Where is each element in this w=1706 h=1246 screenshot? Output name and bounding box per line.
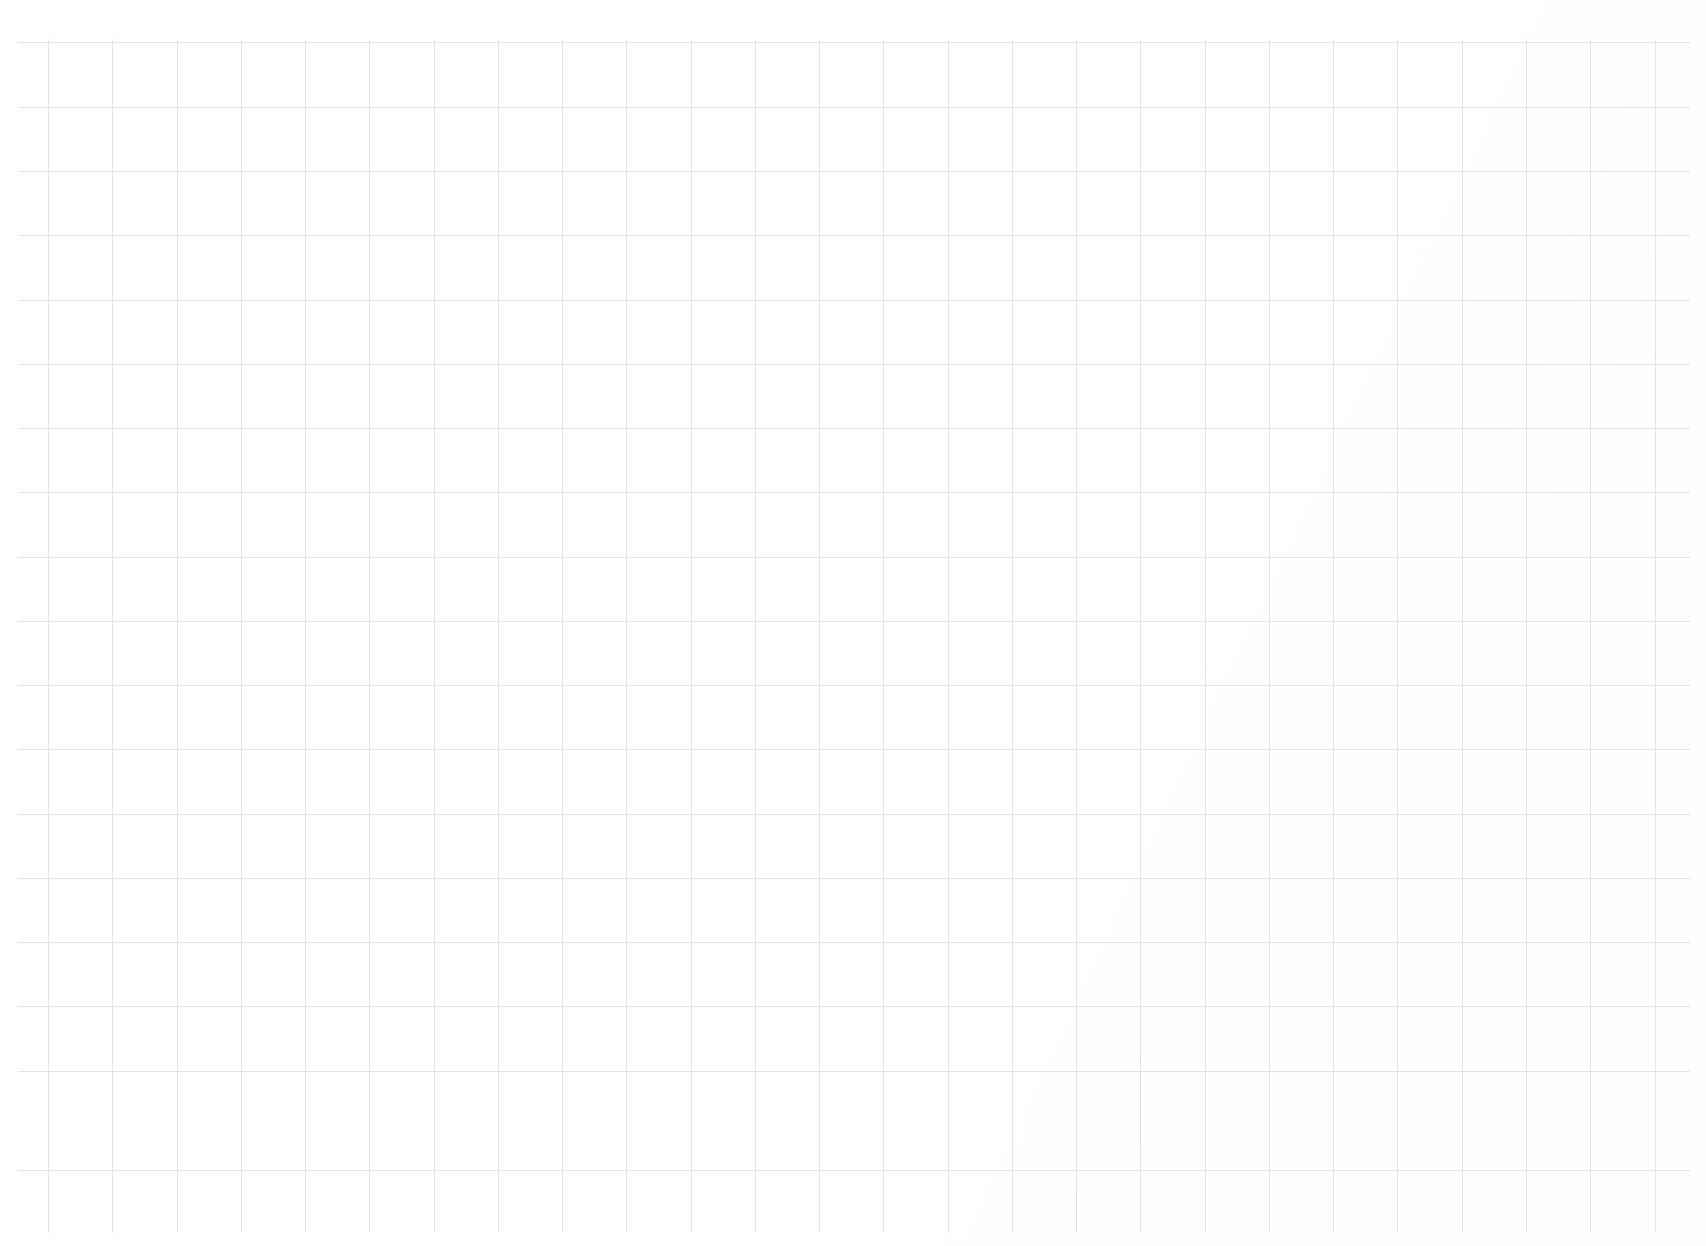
page-canvas — [0, 0, 1706, 1246]
writing-area[interactable] — [18, 40, 1690, 1232]
